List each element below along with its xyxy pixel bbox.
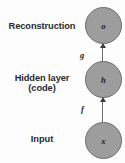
stage-label-hidden-layer-line1: Hidden layer [15, 73, 70, 83]
autoencoder-diagram: Reconstruction Hidden layer (code) Input… [0, 0, 125, 163]
node-input-symbol: x [101, 136, 105, 146]
node-reconstruction-symbol: o [101, 21, 105, 31]
arrow-up-icon-decoder [102, 47, 103, 62]
stage-label-reconstruction: Reconstruction [4, 21, 80, 31]
stage-label-input: Input [4, 134, 80, 144]
arrow-up-icon-encoder [102, 101, 103, 123]
arrow-label-decoder: g [80, 50, 84, 60]
stage-label-hidden-layer: Hidden layer (code) [4, 73, 80, 94]
stage-label-hidden-layer-line2: (code) [4, 83, 80, 93]
node-hidden-layer-symbol: h [101, 75, 106, 85]
node-input: x [85, 122, 122, 159]
arrow-label-encoder: f [81, 104, 84, 114]
node-hidden-layer: h [85, 61, 122, 98]
node-reconstruction: o [85, 7, 122, 44]
